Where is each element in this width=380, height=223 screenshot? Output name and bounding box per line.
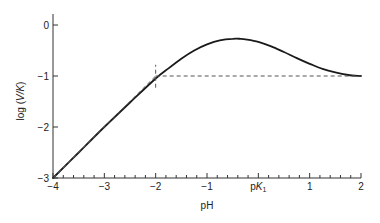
chart: 0−1−2−3 log (V/K) −4−3−2−1pK112 pH	[0, 0, 380, 223]
y-axis: 0−1−2−3 log (V/K)	[15, 14, 58, 184]
x-tick-label: −1	[201, 181, 213, 192]
x-tick-label: 2	[358, 181, 364, 192]
x-tick-label: −2	[150, 181, 162, 192]
x-tick-label: pK1	[250, 181, 266, 193]
y-axis-title: log (V/K)	[15, 82, 26, 121]
y-tick-label: −2	[38, 122, 50, 133]
x-axis-title: pH	[201, 200, 214, 211]
y-tick-label: 0	[43, 20, 49, 31]
x-ticks: −4−3−2−1pK112	[47, 173, 364, 193]
plot-area	[53, 39, 361, 178]
diagonal-asymptote	[53, 76, 156, 178]
y-ticks: 0−1−2−3	[38, 20, 58, 184]
y-tick-label: −1	[38, 71, 50, 82]
x-tick-label: −4	[47, 181, 59, 192]
x-tick-label: −3	[99, 181, 111, 192]
x-axis: −4−3−2−1pK112 pH	[47, 173, 364, 211]
x-tick-label: 1	[307, 181, 313, 192]
data-curve	[53, 39, 361, 178]
